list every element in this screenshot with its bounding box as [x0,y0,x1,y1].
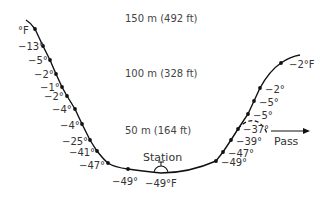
measurement-dot [126,167,130,171]
temperature-label: −4° [52,104,72,115]
measurement-dot [106,161,110,165]
station-label: Station [143,152,182,163]
pass-arrow-head-icon [303,128,310,134]
measurement-dot [60,85,64,89]
measurement-dot [221,150,225,154]
temperature-label: −2° [34,69,54,80]
temperature-label: −47° [228,148,254,159]
measurement-dot [65,94,69,98]
temperature-label: −39° [236,136,262,147]
measurement-dot [246,112,250,116]
temperature-label: −2° [265,84,285,95]
temperature-label: −2° [44,91,64,102]
measurement-dot [73,107,77,111]
altitude-label-50m: 50 m (164 ft) [125,125,191,136]
temperature-label: −5° [28,55,48,66]
temperature-label: °F [18,25,29,36]
measurement-dot [33,27,37,31]
temperature-label: −25° [62,136,88,147]
measurement-dot [80,122,84,126]
temperature-label: −41° [69,147,95,158]
temperature-label: −37° [243,124,269,135]
temperature-label: −49° [112,176,138,187]
measurement-dot [214,159,218,163]
measurement-dot [252,99,256,103]
measurement-dot [258,86,262,90]
temperature-label: −2°F [289,59,315,70]
temperature-label: −5° [253,110,273,121]
measurement-dot [54,72,58,76]
measurement-dot [88,138,92,142]
altitude-label-100m: 100 m (328 ft) [125,68,198,79]
temperature-label: −5° [259,97,279,108]
temperature-label: −4° [60,120,80,131]
measurement-dot [48,58,52,62]
measurement-dot [229,138,233,142]
pass-label: Pass [274,136,298,147]
measurement-dot [236,127,240,131]
altitude-label-150m: 150 m (492 ft) [125,13,198,24]
measurement-dot [95,149,99,153]
measurement-dot [279,61,283,65]
temperature-label: −47° [79,160,105,171]
station-temperature: −49°F [145,178,177,189]
temperature-label: −13° [18,41,44,52]
